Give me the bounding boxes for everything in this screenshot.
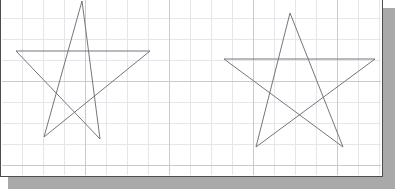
star-shape-right[interactable] [224, 13, 375, 147]
grid-minor-lines [2, 0, 381, 175]
drawing-canvas[interactable] [2, 0, 381, 175]
grid-major-lines [2, 0, 381, 175]
vector-drawing-layer [2, 0, 381, 175]
star-shape-left[interactable] [16, 1, 150, 139]
canvas-frame [0, 0, 383, 177]
drawing-application-window [0, 0, 395, 189]
